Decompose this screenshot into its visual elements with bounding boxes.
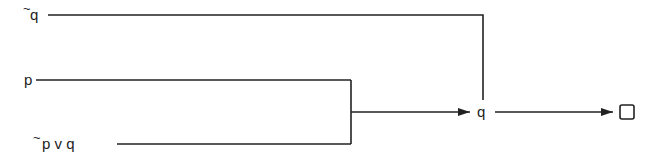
premise-label: q [30,6,38,23]
derived-q-label: q [477,103,485,120]
negation-symbol: ~ [33,130,41,145]
premise-p: p [24,71,32,88]
premise-not-p-or-q: ~ p v q [33,130,75,152]
proof-diagram: ~ q p ~ p v q q [0,0,662,155]
premise-label: p [24,71,32,88]
edge-not-q-to-merge [48,15,483,100]
contradiction-box-icon [620,105,634,119]
premise-not-q: ~ q [23,1,38,23]
premise-label: p v q [42,135,75,152]
